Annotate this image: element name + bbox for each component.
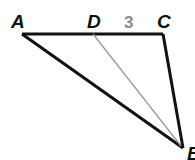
segment-db bbox=[93, 34, 181, 146]
vertex-label-b: B bbox=[187, 143, 195, 160]
segment-ab bbox=[22, 34, 183, 148]
vertex-label-d: D bbox=[87, 11, 101, 32]
segment-cb bbox=[163, 34, 183, 148]
length-label-dc: 3 bbox=[124, 13, 133, 32]
vertex-label-c: C bbox=[157, 11, 171, 32]
triangle-diagram: A D 3 C B bbox=[0, 0, 195, 160]
vertex-label-a: A bbox=[10, 11, 25, 32]
